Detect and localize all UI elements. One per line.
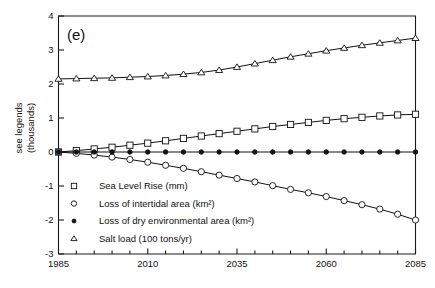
marker-dot [324,150,328,154]
marker-square [163,138,169,144]
marker-circle [323,193,329,199]
marker-circle [163,162,169,168]
y-tick-label: 2 [48,78,53,89]
marker-circle [234,175,240,181]
marker-square [198,133,204,139]
x-tick-label: 2035 [226,258,247,269]
marker-square [270,123,276,129]
marker-square [395,112,401,118]
marker-circle [412,217,418,223]
y-axis-title-line2: (thousands) [25,103,36,153]
marker-circle [216,172,222,178]
marker-dot [270,150,274,154]
marker-dot [413,150,417,154]
x-tick-label: 2060 [316,258,337,269]
marker-square [359,114,365,120]
y-tick-label: -3 [45,248,53,259]
marker-dot [342,150,346,154]
marker-dot [128,150,132,154]
marker-dot [395,150,399,154]
marker-circle [395,211,401,217]
marker-dot [306,150,310,154]
marker-circle [127,156,133,162]
series-3 [56,150,417,154]
marker-circle [270,183,276,189]
y-tick-label: 0 [48,146,53,157]
marker-square [377,113,383,119]
marker-circle [252,179,258,185]
marker-dot [163,150,167,154]
marker-dot [110,150,114,154]
chart-background [0,0,435,288]
marker-square [287,121,293,127]
marker-dot [72,219,76,223]
marker-square [127,142,133,148]
marker-square [180,135,186,141]
marker-dot [146,150,150,154]
marker-circle [109,154,115,160]
marker-dot [199,150,203,154]
marker-circle [305,190,311,196]
legend-label: Loss of intertidal area (km²) [99,198,215,209]
marker-square [323,117,329,123]
marker-circle [359,202,365,208]
legend-label: Salt load (100 tons/yr) [99,233,192,244]
x-tick-label: 2085 [405,258,426,269]
marker-square [216,131,222,137]
marker-circle [145,159,151,165]
marker-square [305,119,311,125]
marker-dot [253,150,257,154]
marker-dot [56,150,60,154]
x-tick-label: 2010 [137,258,158,269]
marker-square [412,111,418,117]
marker-square [234,128,240,134]
marker-dot [288,150,292,154]
y-tick-label: 1 [48,112,53,123]
marker-square [145,140,151,146]
marker-square [71,183,76,188]
marker-dot [235,150,239,154]
marker-dot [217,150,221,154]
chart-figure: 19852010203520602085 -3-2-101234 see leg… [0,0,435,288]
line-chart: 19852010203520602085 -3-2-101234 see leg… [0,0,435,288]
marker-circle [341,198,347,204]
legend-label: Sea Level Rise (mm) [99,180,188,191]
marker-square [252,126,258,132]
marker-square [341,116,347,122]
legend-item: Loss of dry environmental area (km²) [72,215,254,226]
y-tick-label: 3 [48,44,53,55]
marker-circle [180,165,186,171]
legend-label: Loss of dry environmental area (km²) [99,215,254,226]
marker-dot [74,150,78,154]
marker-dot [378,150,382,154]
marker-circle [198,169,204,175]
y-axis-title-line1: see legends [13,102,24,153]
x-tick-label: 1985 [48,258,69,269]
y-tick-label: -2 [45,214,53,225]
y-tick-label: 4 [48,10,53,21]
marker-circle [71,201,76,206]
marker-circle [377,206,383,212]
marker-dot [360,150,364,154]
marker-circle [287,186,293,192]
y-tick-label: -1 [45,180,53,191]
marker-dot [92,150,96,154]
marker-dot [181,150,185,154]
panel-label: (e) [67,26,85,43]
